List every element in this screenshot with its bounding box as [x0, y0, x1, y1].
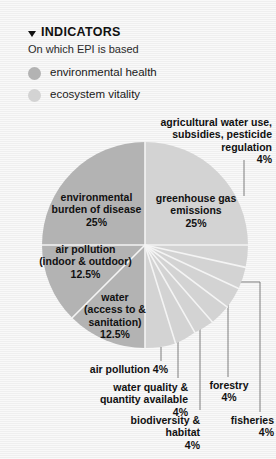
pie-label-line: biodiversity &	[112, 414, 200, 426]
pie-label-line: (indoor & outdoor)	[26, 255, 145, 267]
pie-label-line: forestry	[204, 379, 254, 391]
pie-label-forestry: forestry 4%	[204, 379, 254, 404]
pie-label-line: sanitation)	[75, 316, 155, 328]
pie-label-line: environmental	[44, 191, 149, 203]
pie-label-line: fisheries	[218, 414, 274, 426]
pie-label-fisheries: fisheries 4%	[218, 414, 274, 439]
pie-label-line: greenhouse gas	[150, 192, 242, 204]
pie-label-biodiversity-habitat: biodiversity & habitat 4%	[112, 414, 200, 451]
pie-label-value: 4%	[204, 391, 254, 403]
pie-label-line: (access to &	[75, 303, 155, 315]
pie-label-line: habitat	[112, 426, 200, 438]
pie-label-greenhouse-gas-emissions: greenhouse gas emissions 25%	[150, 192, 242, 229]
leader-line-forestry	[228, 300, 230, 377]
pie-label-value: 12.5%	[75, 328, 155, 340]
pie-label-value: 25%	[44, 216, 149, 228]
pie-label-air-pollution-indoor-outdoor: air pollution (indoor & outdoor) 12.5%	[26, 243, 145, 280]
pie-label-line: water quality &	[84, 381, 188, 393]
pie-label-line: agricultural water use,	[150, 116, 272, 128]
pie-label-line: regulation	[150, 141, 272, 153]
pie-label-value: 12.5%	[26, 268, 145, 280]
pie-label-line: air pollution 4%	[64, 363, 168, 375]
pie-label-line: water	[75, 291, 155, 303]
pie-label-value: 25%	[150, 217, 242, 229]
pie-label-burden-of-disease: environmental burden of disease 25%	[44, 191, 149, 228]
pie-label-air-pollution: air pollution 4%	[64, 363, 168, 375]
pie-label-water-access-sanitation: water (access to & sanitation) 12.5%	[75, 291, 155, 341]
pie-label-line: quantity available	[84, 393, 188, 405]
pie-label-line: air pollution	[26, 243, 145, 255]
pie-label-line: burden of disease	[44, 203, 149, 215]
pie-label-line: emissions	[150, 204, 242, 216]
chart-page: INDICATORS On which EPI is based environ…	[0, 0, 276, 459]
pie-label-agricultural-water-use: agricultural water use, subsidies, pesti…	[150, 116, 272, 166]
pie-label-value: 4%	[150, 153, 272, 165]
pie-label-value: 4%	[218, 426, 274, 438]
pie-label-water-quality-quantity: water quality & quantity available 4%	[84, 381, 188, 418]
pie-chart: environmental burden of disease 25% air …	[0, 0, 276, 459]
pie-label-value: 4%	[112, 439, 200, 451]
pie-label-line: subsidies, pesticide	[150, 128, 272, 140]
